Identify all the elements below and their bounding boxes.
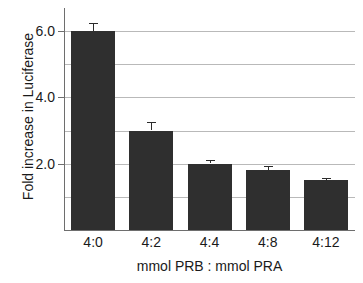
bar-chart-figure: Fold increase in Luciferase 2.04.06.0 4:… (0, 0, 363, 283)
y-axis-tick-label: 4.0 (36, 89, 55, 105)
plot-area: 2.04.06.0 (64, 8, 355, 231)
y-axis-tick-label: 2.0 (36, 156, 55, 172)
bar (246, 170, 290, 230)
y-axis-tick (58, 164, 64, 165)
error-bar-cap (206, 160, 215, 161)
error-bar-line (151, 122, 152, 130)
error-bar-line (93, 23, 94, 31)
x-axis-tick-label: 4:2 (142, 234, 161, 250)
bar (304, 180, 348, 230)
y-axis-line (64, 8, 65, 231)
x-axis-tick-label: 4:8 (258, 234, 277, 250)
error-bar-cap (147, 122, 156, 123)
y-axis-tick (58, 97, 64, 98)
error-bar-cap (264, 166, 273, 167)
x-axis-tick-label: 4:0 (83, 234, 102, 250)
bar (129, 131, 173, 230)
y-axis-tick-label: 6.0 (36, 23, 55, 39)
error-bar-cap (322, 178, 331, 179)
bar (188, 164, 232, 230)
x-axis-tick-label: 4:12 (312, 234, 339, 250)
x-axis-tick-label: 4:4 (200, 234, 219, 250)
x-axis-title: mmol PRB : mmol PRA (64, 258, 355, 274)
x-axis-line (64, 230, 355, 231)
bar (71, 31, 115, 230)
y-axis-tick (58, 31, 64, 32)
error-bar-cap (89, 23, 98, 24)
